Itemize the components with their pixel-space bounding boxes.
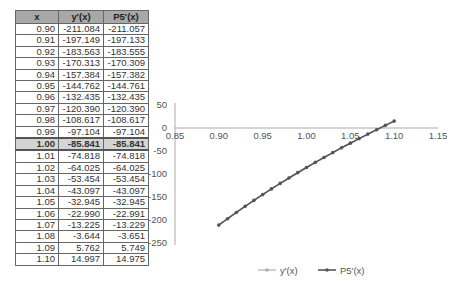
cell-y-prime: -132.435 <box>59 92 104 103</box>
table-header-row: x y'(x) P5'(x) <box>16 11 149 24</box>
header-p5-prime: P5'(x) <box>104 11 149 24</box>
table-body: 0.90-211.084-211.0570.91-197.149-197.133… <box>16 24 149 266</box>
legend-label: P5'(x) <box>340 265 365 276</box>
cell-x: 1.07 <box>16 219 59 230</box>
table-row: 1.095.7625.749 <box>16 242 149 253</box>
cell-x: 0.91 <box>16 35 59 46</box>
chart-axes <box>175 103 438 245</box>
header-x: x <box>16 11 59 24</box>
y-axis-tick-labels: 500-50-100-150-200-250 <box>148 99 167 248</box>
data-point-marker <box>287 176 291 180</box>
header-y-prime: y'(x) <box>59 11 104 24</box>
cell-y-prime: -43.097 <box>59 185 104 196</box>
cell-y-prime: -144.762 <box>59 81 104 92</box>
cell-y-prime: -183.563 <box>59 46 104 57</box>
table-row: 1.03-53.454-53.454 <box>16 174 149 185</box>
data-point-marker <box>278 182 282 186</box>
data-point-marker <box>392 119 396 123</box>
cell-y-prime: -13.225 <box>59 219 104 230</box>
line-chart: 500-50-100-150-200-250 0.850.900.951.001… <box>140 90 454 281</box>
y-tick-label: 50 <box>156 99 167 110</box>
cell-y-prime: -197.149 <box>59 35 104 46</box>
x-axis-tick-labels: 0.850.900.951.001.051.101.15 <box>166 130 448 141</box>
cell-y-prime: -64.025 <box>59 162 104 173</box>
cell-x: 0.94 <box>16 69 59 80</box>
table-row: 1.06-22.990-22.991 <box>16 208 149 219</box>
x-tick-label: 1.00 <box>297 130 316 141</box>
cell-p5-prime: -170.309 <box>104 58 149 69</box>
y-tick-label: -100 <box>148 168 167 179</box>
data-point-marker <box>252 199 256 203</box>
cell-p5-prime: -183.555 <box>104 46 149 57</box>
table-row: 0.90-211.084-211.057 <box>16 24 149 35</box>
cell-x: 0.93 <box>16 58 59 69</box>
cell-x: 0.92 <box>16 46 59 57</box>
y-tick-label: -50 <box>153 145 167 156</box>
x-tick-label: 1.10 <box>385 130 404 141</box>
cell-y-prime: -211.084 <box>59 24 104 35</box>
table-row: 1.05-32.945-32.945 <box>16 197 149 208</box>
cell-x: 0.98 <box>16 115 59 126</box>
cell-y-prime: -170.313 <box>59 58 104 69</box>
legend-item-y-prime: y'(x) <box>258 265 298 276</box>
legend-item-p5-prime: P5'(x) <box>318 265 365 276</box>
cell-x: 1.01 <box>16 150 59 162</box>
cell-x: 1.10 <box>16 254 59 265</box>
cell-y-prime: -32.945 <box>59 197 104 208</box>
data-point-marker <box>296 171 300 175</box>
x-tick-label: 1.15 <box>429 130 448 141</box>
data-point-marker <box>322 156 326 160</box>
cell-x: 1.02 <box>16 162 59 173</box>
data-point-marker <box>384 124 388 128</box>
cell-y-prime: -157.384 <box>59 69 104 80</box>
cell-y-prime: -3.644 <box>59 231 104 242</box>
cell-y-prime: -74.818 <box>59 150 104 162</box>
data-point-marker <box>313 161 317 165</box>
cell-p5-prime: -157.382 <box>104 69 149 80</box>
x-tick-label: 0.95 <box>253 130 272 141</box>
table-row: 1.07-13.225-13.229 <box>16 219 149 230</box>
cell-x: 1.00 <box>16 138 59 150</box>
table-row: 0.94-157.384-157.382 <box>16 69 149 80</box>
legend-label: y'(x) <box>280 265 298 276</box>
table-row: 0.99-97.104-97.104 <box>16 126 149 138</box>
data-point-marker <box>217 223 221 227</box>
cell-x: 1.09 <box>16 242 59 253</box>
data-table: x y'(x) P5'(x) 0.90-211.084-211.0570.91-… <box>15 10 149 266</box>
y-tick-label: -150 <box>148 191 167 202</box>
table-row: 1.00-85.841-85.841 <box>16 138 149 150</box>
data-point-marker <box>349 141 353 145</box>
data-point-marker <box>366 132 370 136</box>
data-point-marker <box>235 211 239 215</box>
cell-x: 0.99 <box>16 126 59 138</box>
cell-y-prime: -22.990 <box>59 208 104 219</box>
cell-x: 0.90 <box>16 24 59 35</box>
data-point-marker <box>226 217 230 221</box>
table-row: 1.02-64.025-64.025 <box>16 162 149 173</box>
x-tick-label: 0.85 <box>166 130 185 141</box>
cell-x: 0.97 <box>16 103 59 114</box>
cell-y-prime: -120.390 <box>59 103 104 114</box>
cell-y-prime: -85.841 <box>59 138 104 150</box>
cell-y-prime: -53.454 <box>59 174 104 185</box>
x-tick-label: 0.90 <box>210 130 229 141</box>
table-row: 0.98-108.617-108.617 <box>16 115 149 126</box>
cell-y-prime: -97.104 <box>59 126 104 138</box>
table-row: 1.1014.99714.975 <box>16 254 149 265</box>
table-row: 1.08-3.644-3.651 <box>16 231 149 242</box>
cell-y-prime: -108.617 <box>59 115 104 126</box>
table-row: 0.97-120.390-120.390 <box>16 103 149 114</box>
cell-x: 1.04 <box>16 185 59 196</box>
data-point-marker <box>357 137 361 141</box>
cell-x: 1.05 <box>16 197 59 208</box>
cell-x: 1.06 <box>16 208 59 219</box>
cell-x: 0.96 <box>16 92 59 103</box>
chart-legend: y'(x)P5'(x) <box>258 265 365 276</box>
table-row: 1.04-43.097-43.097 <box>16 185 149 196</box>
data-point-marker <box>261 193 265 197</box>
legend-marker-icon <box>325 268 329 272</box>
cell-y-prime: 14.997 <box>59 254 104 265</box>
table-row: 1.01-74.818-74.818 <box>16 150 149 162</box>
data-point-marker <box>305 166 309 170</box>
table-row: 0.91-197.149-197.133 <box>16 35 149 46</box>
